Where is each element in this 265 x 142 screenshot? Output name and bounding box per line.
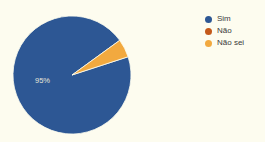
pie-svg: 95% <box>13 16 131 134</box>
pie-slices <box>13 16 131 134</box>
legend-item-nao[interactable]: Não <box>204 25 265 37</box>
pie-chart-figure: 95% Sim Não Não sei <box>0 0 265 142</box>
legend-label: Sim <box>217 13 231 25</box>
legend-swatch-icon <box>205 16 212 23</box>
legend-item-sim[interactable]: Sim <box>204 13 265 25</box>
pie-slice-label-sim: 95% <box>35 76 50 85</box>
pie-chart-graphic: 95% <box>13 16 131 134</box>
legend-swatch-icon <box>205 40 212 47</box>
legend-swatch-icon <box>205 28 212 35</box>
legend-label: Não <box>217 25 232 37</box>
chart-legend: Sim Não Não sei <box>204 13 265 59</box>
legend-label: Não sei <box>217 37 244 49</box>
legend-item-nao-sei[interactable]: Não sei <box>204 37 265 49</box>
